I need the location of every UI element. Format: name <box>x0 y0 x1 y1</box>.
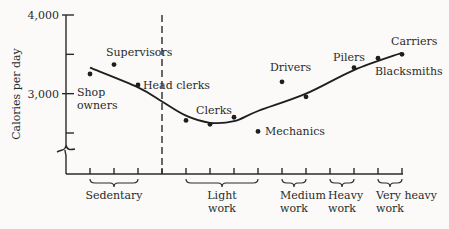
group-brace <box>186 179 258 187</box>
group-label: Heavywork <box>328 189 364 215</box>
point-label: Shopowners <box>77 86 118 112</box>
axis-break-mark <box>57 145 75 155</box>
y-axis-label: Calories per day <box>10 47 23 139</box>
data-point <box>112 62 117 67</box>
point-label: Clerks <box>196 104 232 117</box>
data-point <box>184 118 189 123</box>
point-label: Head clerks <box>143 79 210 92</box>
data-point <box>376 56 381 61</box>
data-point <box>232 115 237 120</box>
y-axis: 4,0003,000 <box>28 9 76 174</box>
point-labels: ShopownersSupervisorsHead clerksClerksMe… <box>77 35 443 138</box>
point-label: Pilers <box>333 51 365 64</box>
y-tick-label: 3,000 <box>28 88 60 101</box>
data-point <box>88 72 93 77</box>
group-brace <box>282 179 306 187</box>
group-label: Mediumwork <box>280 189 326 215</box>
point-label: Carriers <box>391 35 438 48</box>
data-points <box>88 52 405 134</box>
data-point <box>304 94 309 99</box>
group-brace <box>378 179 402 187</box>
data-point <box>400 52 405 57</box>
x-groups: SedentaryLightworkMediumworkHeavyworkVer… <box>85 179 437 215</box>
point-label: Drivers <box>270 61 312 74</box>
calories-chart: 4,0003,000 ShopownersSupervisorsHead cle… <box>0 0 449 229</box>
data-point <box>352 65 357 70</box>
point-label: Blacksmiths <box>375 65 443 78</box>
data-point <box>208 122 213 127</box>
group-label: Very heavywork <box>375 189 438 215</box>
group-brace <box>330 179 354 187</box>
x-axis <box>66 15 403 174</box>
y-tick-label: 4,000 <box>28 9 60 22</box>
point-label: Mechanics <box>265 125 325 138</box>
data-point <box>256 129 261 134</box>
group-label: Lightwork <box>207 189 237 215</box>
data-point <box>280 79 285 84</box>
point-label: Supervisors <box>106 46 173 59</box>
group-label: Sedentary <box>85 189 143 202</box>
data-point <box>136 83 141 88</box>
group-brace <box>90 179 138 187</box>
